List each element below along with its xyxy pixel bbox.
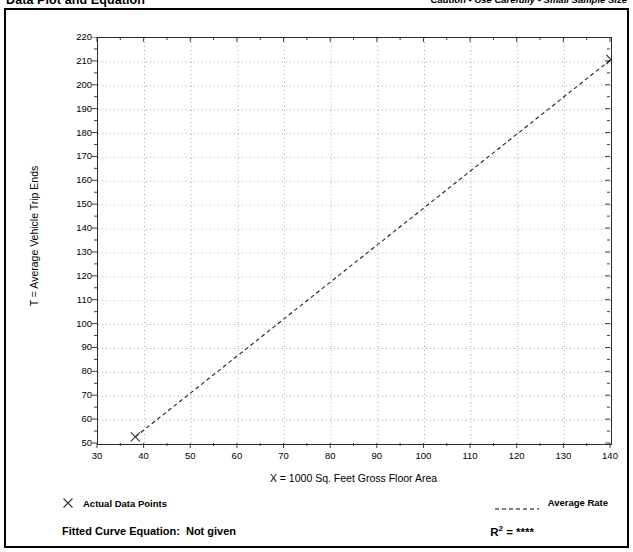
x-tick-label: 100 [403, 450, 443, 461]
fitted-curve-value: Not given [186, 525, 236, 537]
x-marker-icon [62, 497, 74, 509]
legend-label-actual-data-points: Actual Data Points [83, 498, 167, 509]
caution-note: Caution - Use Carefully - Small Sample S… [431, 0, 627, 5]
y-tick-label: 70 [81, 390, 92, 400]
x-tick-label: 130 [543, 450, 583, 461]
y-tick-label: 60 [81, 414, 92, 424]
y-tick-label: 50 [81, 438, 92, 448]
y-tick-label: 120 [76, 271, 92, 281]
x-tick-label: 110 [450, 450, 490, 461]
chart-legend: Actual Data Points Average Rate [6, 494, 626, 518]
y-tick-label: 80 [81, 366, 92, 376]
page-title: Data Plot and Equation [6, 0, 145, 7]
x-axis-title: X = 1000 Sq. Feet Gross Floor Area [97, 472, 610, 484]
page-header: Data Plot and Equation Caution - Use Car… [0, 0, 633, 8]
x-tick-label: 90 [357, 450, 397, 461]
y-tick-label: 90 [81, 342, 92, 352]
r-squared-stars: **** [516, 526, 534, 538]
axis-ticks [87, 37, 622, 457]
y-tick-label: 110 [77, 295, 92, 305]
x-tick-label: 50 [170, 450, 210, 461]
y-tick-label: 140 [76, 223, 92, 233]
chart-figure: 5060708090100110120130140150160170180190… [6, 10, 626, 545]
legend-item-average-rate: Average Rate [495, 497, 608, 508]
legend-label-average-rate: Average Rate [548, 497, 608, 508]
y-tick-label: 150 [76, 199, 92, 209]
x-tick-label: 140 [590, 450, 630, 461]
chart-frame: 5060708090100110120130140150160170180190… [4, 8, 629, 548]
r-squared-value: R2 = **** [490, 524, 534, 538]
y-tick-label: 220 [76, 32, 92, 42]
x-axis-tick-labels: 30405060708090100110120130140 [97, 450, 610, 464]
dashed-line-icon [495, 502, 539, 503]
y-tick-label: 190 [76, 104, 92, 114]
y-tick-label: 130 [76, 247, 92, 257]
y-axis-tick-labels: 5060708090100110120130140150160170180190… [56, 37, 92, 443]
x-tick-label: 30 [77, 450, 117, 461]
legend-item-actual-data-points: Actual Data Points [62, 497, 167, 509]
y-tick-label: 210 [76, 56, 92, 66]
y-tick-label: 200 [76, 80, 92, 90]
y-tick-label: 170 [76, 151, 92, 161]
x-tick-label: 120 [497, 450, 537, 461]
fitted-curve-equation: Fitted Curve Equation:Not given [62, 525, 236, 537]
x-tick-label: 40 [124, 450, 164, 461]
y-tick-label: 100 [76, 319, 92, 329]
x-tick-label: 60 [217, 450, 257, 461]
chart-footer: Fitted Curve Equation:Not given R2 = ***… [6, 522, 626, 548]
x-tick-label: 80 [310, 450, 350, 461]
y-axis-title: T = Average Vehicle Trip Ends [28, 136, 40, 336]
y-tick-label: 160 [76, 175, 92, 185]
fitted-curve-label: Fitted Curve Equation: [62, 525, 180, 537]
r-squared-label: R [490, 526, 498, 538]
x-tick-label: 70 [264, 450, 304, 461]
y-tick-label: 180 [76, 128, 92, 138]
r-squared-equals: = [503, 526, 516, 538]
